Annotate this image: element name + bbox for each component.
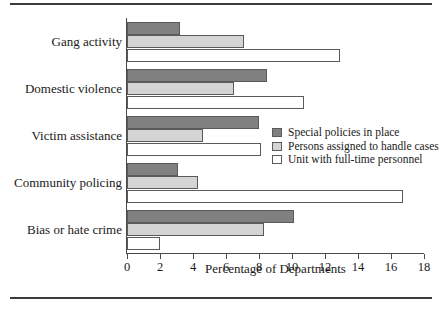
bar [127,82,234,95]
legend-item: Special policies in place [272,126,439,140]
bar [127,49,340,62]
legend-swatch-icon [272,155,282,164]
bar [127,163,178,176]
bar [127,22,180,35]
category-axis-labels: Gang activityDomestic violenceVictim ass… [0,18,122,253]
x-axis-line [126,253,424,254]
x-axis-title: Percentage of Departments [127,261,424,277]
x-tick [193,254,194,259]
bar-group [127,18,424,65]
bar [127,69,267,82]
category-label: Domestic violence [2,81,122,96]
bottom-rule [10,297,432,299]
x-tick [226,254,227,259]
legend-swatch-icon [272,128,282,137]
category-label: Community policing [2,175,122,190]
legend-item: Persons assigned to handle cases [272,140,439,154]
legend-item: Unit with full-time personnel [272,153,439,167]
x-tick [160,254,161,259]
bar [127,190,403,203]
x-tick [424,254,425,259]
x-tick [292,254,293,259]
bar [127,35,244,48]
bar-group [127,65,424,112]
top-rule [10,3,432,5]
category-label: Gang activity [2,34,122,49]
category-label: Victim assistance [2,128,122,143]
bar [127,116,259,129]
x-tick [325,254,326,259]
x-tick [358,254,359,259]
legend-label: Persons assigned to handle cases [288,140,439,154]
bar-chart-figure: Gang activityDomestic violenceVictim ass… [0,0,442,310]
bar-group [127,206,424,253]
bar [127,176,198,189]
category-label: Bias or hate crime [2,222,122,237]
x-tick [259,254,260,259]
x-tick [391,254,392,259]
legend-swatch-icon [272,142,282,151]
bar [127,129,203,142]
legend-label: Special policies in place [288,126,399,140]
bar [127,210,294,223]
chart-legend: Special policies in placePersons assigne… [272,126,439,167]
bar [127,237,160,250]
bar [127,143,261,156]
bar [127,223,264,236]
legend-label: Unit with full-time personnel [288,153,422,167]
bar [127,96,304,109]
x-tick [127,254,128,259]
